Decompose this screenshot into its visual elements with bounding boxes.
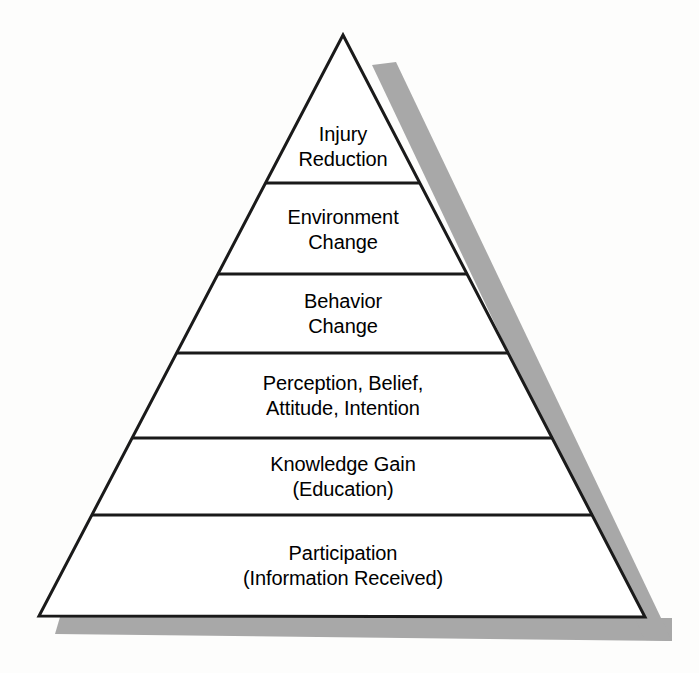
injury-prevention-pyramid-diagram: Injury Reduction Environment Change Beha… <box>0 0 699 673</box>
pyramid-body <box>39 35 645 617</box>
base-shadow <box>55 617 672 641</box>
pyramid-graphic <box>0 0 699 673</box>
